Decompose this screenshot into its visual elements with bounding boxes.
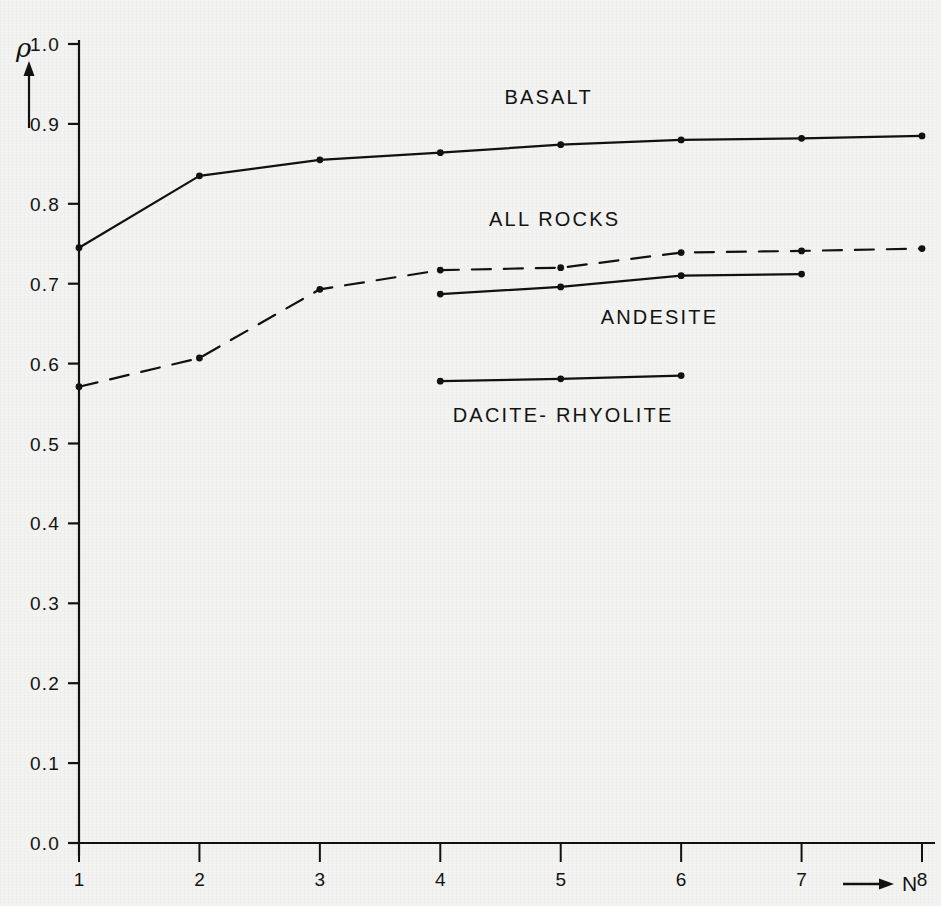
x-axis-right-arrow-icon [843, 879, 894, 890]
series-dacite-rhyolite [437, 372, 685, 384]
y-axis-tick-label: 1.0 [30, 34, 60, 55]
x-axis-tick-label: 7 [796, 869, 807, 890]
series-andesite [437, 271, 805, 298]
data-point-marker [919, 132, 926, 139]
x-axis-tick-label: 2 [194, 869, 205, 890]
data-point-marker [76, 244, 83, 251]
data-point-marker [437, 149, 444, 156]
rho-vs-n-line-chart: 1.00.90.80.70.60.50.40.30.20.10.0 123456… [0, 0, 941, 906]
data-series-layer [76, 132, 926, 390]
series-basalt [76, 132, 926, 251]
data-point-marker [557, 264, 564, 271]
series-label-andesite: ANDESITE [601, 306, 719, 328]
x-axis-title-group: N [843, 872, 917, 895]
data-point-marker [798, 271, 805, 278]
series-line [79, 249, 922, 387]
data-point-marker [557, 141, 564, 148]
y-axis-tick-label: 0.5 [30, 434, 60, 455]
series-label-all-rocks: ALL ROCKS [489, 208, 620, 230]
x-axis-tick-label: 8 [917, 869, 928, 890]
x-axis-tick-label: 1 [74, 869, 85, 890]
data-point-marker [437, 267, 444, 274]
y-axis-tick-label: 0.0 [30, 833, 60, 854]
y-axis-symbol-rho: ρ [15, 33, 32, 63]
x-axis-symbol-n: N [902, 872, 917, 895]
series-label-basalt: BASALT [504, 86, 592, 108]
data-point-marker [196, 355, 203, 362]
data-point-marker [678, 249, 685, 256]
figure-canvas: 1.00.90.80.70.60.50.40.30.20.10.0 123456… [0, 0, 941, 906]
data-point-marker [196, 172, 203, 179]
data-point-marker [76, 383, 83, 390]
data-point-marker [919, 245, 926, 252]
series-label-dacite-rhyolite: DACITE- RHYOLITE [453, 404, 674, 426]
y-axis-tick-label: 0.7 [30, 274, 60, 295]
data-point-marker [437, 378, 444, 385]
y-axis-tick-label: 0.3 [30, 593, 60, 614]
x-axis-tick-labels: 12345678 [74, 869, 928, 890]
data-point-marker [798, 135, 805, 142]
x-axis-tick-label: 6 [676, 869, 687, 890]
y-axis-tick-labels: 1.00.90.80.70.60.50.40.30.20.10.0 [30, 34, 60, 854]
data-point-marker [678, 372, 685, 379]
series-all-rocks [76, 245, 926, 390]
data-point-marker [557, 284, 564, 291]
y-axis-tick-label: 0.4 [30, 513, 60, 534]
x-axis-tick-label: 3 [315, 869, 326, 890]
data-point-marker [316, 156, 323, 163]
data-point-marker [798, 248, 805, 255]
series-line [79, 136, 922, 248]
x-axis-tick-label: 4 [435, 869, 446, 890]
y-axis-tick-label: 0.9 [30, 114, 60, 135]
x-axis-tick-label: 5 [555, 869, 566, 890]
series-line [440, 274, 801, 294]
data-point-marker [437, 291, 444, 298]
axes [70, 40, 935, 856]
data-point-marker [678, 272, 685, 279]
x-axis-ticks [79, 843, 922, 862]
y-axis-ticks [68, 44, 79, 843]
y-axis-tick-label: 0.8 [30, 194, 60, 215]
y-axis-tick-label: 0.2 [30, 673, 60, 694]
y-axis-tick-label: 0.6 [30, 354, 60, 375]
data-point-marker [316, 286, 323, 293]
y-axis-tick-label: 0.1 [30, 753, 60, 774]
data-point-marker [678, 136, 685, 143]
data-point-marker [557, 375, 564, 382]
